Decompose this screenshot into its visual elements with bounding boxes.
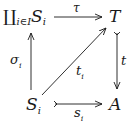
- coproduct-base: S: [31, 6, 43, 26]
- arrow-t-i: [42, 28, 106, 95]
- node-A: A: [109, 96, 121, 113]
- node-S-i: Si: [26, 96, 41, 116]
- label-t: t: [121, 54, 126, 67]
- coproduct-symbol: ∐: [3, 6, 17, 26]
- coproduct-index: i∈I: [17, 16, 32, 27]
- label-sigma-i: σi: [10, 53, 21, 70]
- label-tau: τ: [73, 2, 80, 14]
- coproduct-base-sub: i: [43, 16, 46, 27]
- node-T: T: [109, 8, 120, 25]
- label-t-i: ti: [76, 64, 84, 81]
- node-coproduct: ∐i∈ISi: [3, 8, 46, 27]
- label-s-i: si: [74, 106, 83, 123]
